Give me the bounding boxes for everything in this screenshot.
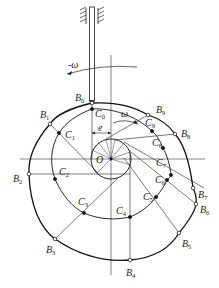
b-label-9: B9	[156, 104, 165, 116]
b-label-2: B2	[13, 173, 22, 185]
cam-diagram: B0B1B2B3B4B5B6B7B8B9 C0C1C2C3C4C5C6C7C8C…	[0, 0, 219, 288]
b-point-6	[194, 202, 198, 206]
follower-rod	[90, 7, 95, 101]
c-point-5	[154, 195, 157, 198]
b-point-5	[177, 231, 181, 235]
tangent-lines	[29, 103, 204, 260]
pitch-points: C0C1C2C3C4C5C6C7C8C9	[53, 107, 172, 218]
cam-profile	[29, 103, 196, 261]
b-label-3: B3	[46, 244, 55, 256]
neg-omega-label: -ω	[68, 59, 78, 70]
c-label-2: C2	[59, 166, 69, 178]
arrow-icon	[67, 71, 72, 75]
c-label-5: C5	[143, 191, 153, 203]
b-point-4	[128, 258, 132, 262]
b-point-7	[191, 186, 195, 190]
c-label-9: C9	[145, 117, 155, 129]
c-label-0: C0	[95, 108, 105, 120]
offset-label: e	[98, 122, 103, 133]
c-point-4	[128, 215, 131, 218]
c-label-6: C6	[155, 174, 166, 186]
center-point	[110, 158, 113, 161]
c-label-4: C4	[116, 205, 127, 217]
b-label-6: B6	[200, 204, 210, 216]
b-point-0	[90, 101, 94, 105]
c-label-8: C8	[152, 137, 162, 149]
b-label-0: B0	[75, 92, 84, 104]
c-point-1	[57, 131, 60, 134]
c-point-9	[150, 129, 153, 132]
profile-points: B0B1B2B3B4B5B6B7B8B9	[13, 92, 210, 279]
b-label-7: B7	[198, 189, 208, 201]
b-label-5: B5	[182, 238, 191, 250]
center-label: O	[96, 154, 103, 165]
b-point-1	[48, 122, 52, 126]
c-label-3: C3	[78, 196, 88, 208]
c-label-1: C1	[65, 129, 75, 141]
b-point-3	[53, 237, 57, 241]
b-label-8: B8	[181, 128, 190, 140]
b-label-4: B4	[126, 267, 136, 279]
c-point-6	[165, 178, 168, 181]
b-point-8	[173, 132, 177, 136]
b-label-1: B1	[40, 109, 49, 121]
omega-label: ω	[121, 108, 128, 119]
c-point-0	[90, 107, 93, 110]
c-point-7	[169, 173, 172, 176]
c-point-2	[53, 177, 56, 180]
c-point-3	[82, 211, 85, 214]
b-point-2	[27, 172, 31, 176]
